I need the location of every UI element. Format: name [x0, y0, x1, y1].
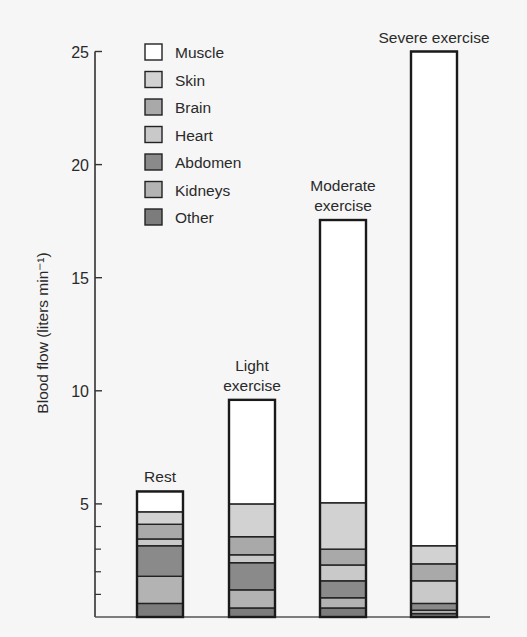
- legend-label: Brain: [175, 99, 211, 116]
- y-tick-label: 25: [71, 44, 89, 61]
- y-tick-label: 10: [71, 383, 89, 400]
- legend: MuscleSkinBrainHeartAbdomenKidneysOther: [145, 44, 241, 226]
- bar-severe-exercise: [411, 52, 457, 618]
- legend-item-heart: Heart: [145, 127, 214, 144]
- segment-other: [320, 608, 366, 617]
- legend-label: Heart: [175, 127, 214, 144]
- segment-muscle: [411, 52, 457, 546]
- segment-heart: [320, 565, 366, 581]
- segment-abdomen: [229, 563, 275, 590]
- legend-swatch: [145, 209, 162, 225]
- segment-kidneys: [137, 576, 183, 603]
- segment-skin: [320, 503, 366, 549]
- legend-swatch: [145, 127, 162, 143]
- segment-skin: [137, 512, 183, 524]
- segment-abdomen: [411, 603, 457, 610]
- segment-kidneys: [229, 590, 275, 608]
- legend-item-other: Other: [145, 209, 214, 226]
- bar-label: Rest: [144, 468, 177, 485]
- segment-brain: [320, 549, 366, 565]
- legend-item-kidneys: Kidneys: [145, 182, 230, 199]
- segment-muscle: [229, 400, 275, 504]
- y-tick-label: 20: [71, 157, 89, 174]
- blood-flow-chart: 510152025 RestLightexerciseModerateexerc…: [0, 0, 527, 637]
- segment-muscle: [137, 491, 183, 511]
- bar-label: exercise: [314, 197, 372, 214]
- segment-skin: [229, 504, 275, 537]
- segment-other: [229, 608, 275, 617]
- y-tick-label: 5: [80, 496, 89, 513]
- bar-rest: [137, 491, 183, 617]
- legend-label: Other: [175, 209, 214, 226]
- segment-brain: [411, 564, 457, 581]
- legend-swatch: [145, 182, 162, 198]
- legend-swatch: [145, 72, 162, 88]
- bar-moderate-exercise: [320, 220, 366, 617]
- legend-label: Muscle: [175, 44, 224, 61]
- legend-label: Skin: [175, 72, 205, 89]
- legend-item-abdomen: Abdomen: [145, 154, 241, 171]
- legend-swatch: [145, 154, 162, 170]
- segment-skin: [411, 546, 457, 564]
- legend-label: Abdomen: [175, 154, 241, 171]
- bar-label: Severe exercise: [378, 29, 489, 46]
- y-tick-label: 15: [71, 270, 89, 287]
- segment-abdomen: [137, 546, 183, 577]
- segment-heart: [137, 539, 183, 546]
- bar-label: exercise: [223, 377, 281, 394]
- segment-heart: [229, 555, 275, 563]
- legend-item-brain: Brain: [145, 99, 211, 116]
- bar-label: Light: [235, 357, 269, 374]
- segment-brain: [137, 524, 183, 539]
- legend-item-skin: Skin: [145, 72, 205, 89]
- segment-heart: [411, 581, 457, 604]
- y-axis-title: Blood flow (liters min⁻¹): [34, 252, 51, 413]
- segment-kidneys: [320, 598, 366, 608]
- legend-item-muscle: Muscle: [145, 44, 224, 61]
- bar-light-exercise: [229, 400, 275, 617]
- segment-other: [137, 603, 183, 617]
- legend-label: Kidneys: [175, 182, 230, 199]
- segment-abdomen: [320, 581, 366, 598]
- bar-label: Moderate: [310, 177, 375, 194]
- segment-muscle: [320, 220, 366, 503]
- segment-brain: [229, 537, 275, 555]
- legend-swatch: [145, 99, 162, 115]
- legend-swatch: [145, 44, 162, 60]
